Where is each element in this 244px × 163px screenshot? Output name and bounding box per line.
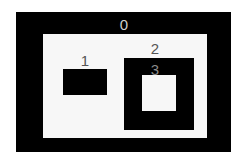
region-1-rect — [63, 69, 107, 95]
region-1-label: 1 — [81, 53, 89, 68]
region-2-label: 2 — [151, 41, 159, 56]
region-0-label: 0 — [120, 17, 128, 32]
region-3-hole — [142, 75, 176, 111]
region-3-label: 3 — [151, 62, 159, 77]
